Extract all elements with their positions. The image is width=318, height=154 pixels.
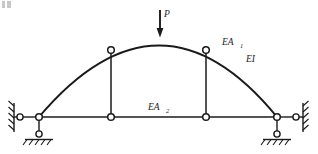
left-wall-hatching	[9, 101, 15, 130]
hinge-tie-right-hanger-bottom	[203, 114, 210, 121]
load-label: P	[163, 9, 170, 19]
arch-axial-label: EA	[221, 37, 234, 47]
right-wall-link-hinge	[293, 114, 299, 120]
left-wall-link-hinge	[17, 114, 23, 120]
right-wall-hatching	[303, 101, 309, 130]
hinge-arch-right-springing	[274, 114, 281, 121]
hinge-arch-left-hanger-top	[108, 47, 115, 54]
left-ground-hatching	[23, 140, 51, 146]
hinge-arch-left-springing	[36, 114, 43, 121]
left-ground-link-hinge	[36, 131, 42, 137]
right-ground-link-hinge	[274, 131, 280, 137]
arch-axial-label-subscript: 1	[240, 42, 243, 49]
hinge-tie-left-hanger-bottom	[108, 114, 115, 121]
right-ground-hatching	[261, 140, 289, 146]
tie-axial-label: EA	[147, 102, 160, 112]
tie-axial-label-subscript: 2	[166, 107, 170, 114]
arch-flexural-label: EI	[245, 54, 256, 64]
load-arrow-head-icon	[157, 28, 164, 38]
hinge-arch-right-hanger-top	[203, 47, 210, 54]
structural-diagram: P EA 1 EI EA 2	[0, 0, 318, 154]
figure-container: P EA 1 EI EA 2	[0, 0, 318, 154]
